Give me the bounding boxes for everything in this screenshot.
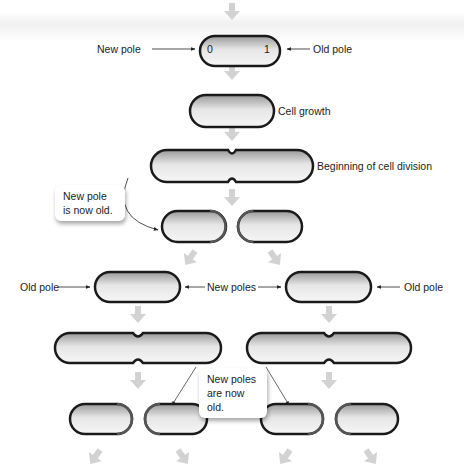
label-old-pole-right: Old pole — [404, 281, 443, 293]
callout-new-pole-now-old: New pole is now old. — [55, 185, 125, 221]
callout1-line2: is now old. — [63, 203, 117, 217]
pole-number-old: 1 — [264, 43, 270, 55]
callout2-line2: are now old. — [207, 386, 259, 414]
cell-stage6-dividing-left — [55, 333, 221, 363]
cell-stage5-left — [95, 272, 180, 302]
callout-new-poles-now-old: New poles are now old. — [199, 368, 267, 418]
callout2-line1: New poles — [207, 372, 259, 386]
cell-stage2 — [190, 95, 274, 127]
curved-pointer — [124, 178, 158, 230]
cell-stage5-right — [286, 272, 371, 302]
label-cell-growth: Cell growth — [278, 105, 331, 117]
cell-stage7-3 — [261, 404, 323, 434]
label-new-pole: New pole — [97, 43, 141, 55]
cell-stage4-daughter-right — [238, 211, 302, 242]
callout1-line1: New pole — [63, 189, 117, 203]
label-new-poles: New poles — [207, 281, 256, 293]
cell-stage7-4 — [336, 404, 398, 434]
cell-stage7-2 — [145, 404, 207, 434]
cell-stage6-dividing-right — [247, 333, 411, 363]
label-old-pole-left: Old pole — [20, 281, 59, 293]
pole-number-new: 0 — [207, 43, 213, 55]
cell-stage3-dividing — [151, 150, 313, 182]
cell-stage7-1 — [70, 404, 132, 434]
pointer-stage7-left — [172, 367, 196, 405]
cell-stage4-daughter-left — [162, 211, 226, 242]
label-beginning-of-division: Beginning of cell division — [317, 160, 432, 172]
pointer-stage7-right — [266, 367, 289, 405]
label-old-pole: Old pole — [313, 43, 352, 55]
